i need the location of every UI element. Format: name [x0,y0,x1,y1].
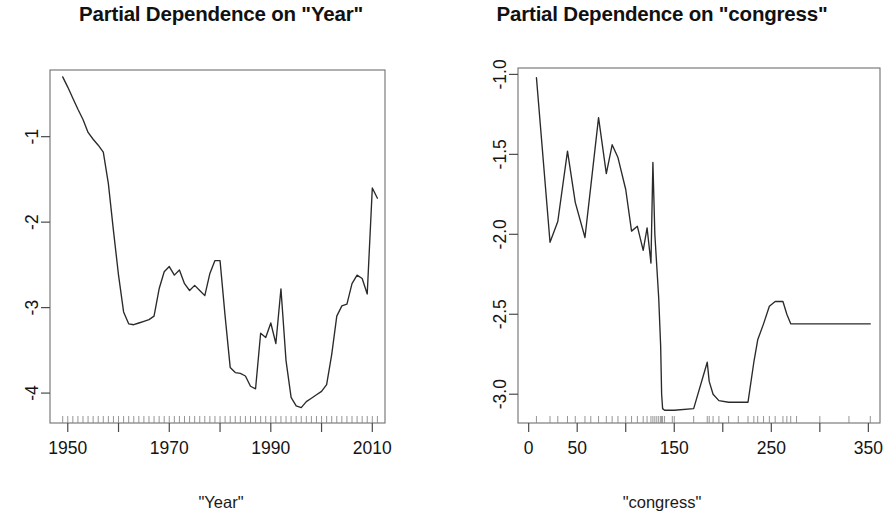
plot-frame [518,68,880,423]
y-axis-tick-label: -2.0 [490,219,510,249]
x-axis-tick-label: 350 [854,438,883,458]
plot-area-year: -1-2-3-41950197019902010 [0,0,442,526]
x-axis-title-year: "Year" [0,493,442,512]
panel-partial-dependence-year: Partial Dependence on "Year" -1-2-3-4195… [0,0,442,526]
x-axis-tick-label: 0 [524,438,534,458]
data-line [63,77,378,408]
x-axis-title-congress: "congress" [441,493,883,512]
x-axis-tick-label: 250 [757,438,786,458]
y-axis-tick-label: -2.5 [490,299,510,329]
y-axis-tick-label: -1.0 [490,59,510,89]
x-axis-tick-label: 1970 [150,438,189,458]
x-axis-tick-label: 1990 [251,438,290,458]
plot-area-congress: -1.0-1.5-2.0-2.5-3.0050150250350 [441,0,883,526]
panel-partial-dependence-congress: Partial Dependence on "congress" -1.0-1.… [441,0,883,526]
figure-root: Partial Dependence on "Year" -1-2-3-4195… [0,0,883,526]
x-axis-tick-label: 1950 [48,438,87,458]
x-axis-tick-label: 50 [567,438,587,458]
data-line [536,78,870,411]
y-axis-tick-label: -4 [22,385,42,401]
x-axis-tick-label: 150 [660,438,689,458]
y-axis-tick-label: -3.0 [490,379,510,409]
plot-frame [50,70,385,423]
y-axis-tick-label: -3 [22,300,42,316]
y-axis-tick-label: -1.5 [490,139,510,169]
y-axis-tick-label: -1 [22,129,42,145]
x-axis-tick-label: 2010 [353,438,392,458]
y-axis-tick-label: -2 [22,214,42,230]
